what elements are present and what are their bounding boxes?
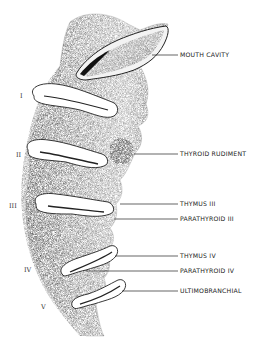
label-thymus-3: THYMUS III	[180, 201, 215, 207]
label-parathyroid-3: PARATHYROID III	[180, 216, 234, 222]
arch-numeral-2: II	[16, 152, 21, 159]
label-ultimobranchial: ULTIMOBRANCHIAL	[180, 288, 242, 294]
arch-numeral-5: V	[41, 304, 46, 311]
label-thyroid-rudiment: THYROID RUDIMENT	[180, 151, 246, 157]
arch-numeral-4: IV	[24, 267, 31, 274]
label-thymus-4: THYMUS IV	[180, 253, 216, 259]
label-parathyroid-4: PARATHYROID IV	[180, 268, 234, 274]
arch-numeral-3: III	[9, 203, 17, 210]
arch-numeral-1: I	[20, 93, 23, 100]
label-mouth-cavity: MOUTH CAVITY	[180, 52, 229, 58]
